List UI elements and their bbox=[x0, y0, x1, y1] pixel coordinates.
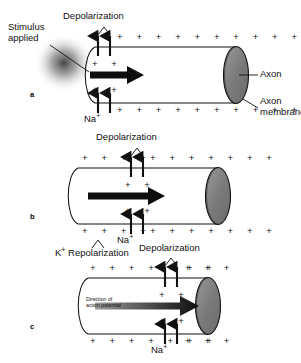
charge-row-a-top-inner: + + bbox=[92, 59, 122, 70]
charge-row-a-top-outer: + + + + + + + + + + + bbox=[117, 32, 301, 43]
axon-terminal-cap-c bbox=[196, 278, 221, 335]
charge-row-b-top-left: + + + + bbox=[82, 153, 151, 164]
charge-row-a-bot-inner: + + bbox=[92, 85, 122, 96]
charge-row-c-bot-right: + + + bbox=[185, 336, 235, 347]
axon-terminal-cap-b bbox=[206, 168, 231, 225]
charge-row-b-top-right: + + + + + + + bbox=[150, 153, 277, 164]
charge-row-c-top-right: + + + bbox=[185, 263, 235, 274]
depolarization-leader-a bbox=[98, 27, 110, 35]
potassium-repolarization-label: K+ Repolarization bbox=[55, 245, 129, 259]
panel-letter-b: b bbox=[30, 212, 35, 221]
charge-row-c-top-inner: + + bbox=[159, 290, 189, 301]
charge-row-b-top-inner: + + bbox=[125, 180, 155, 191]
charge-row-b-bot-left: + + + + bbox=[82, 226, 151, 237]
stimulus-applied-label: Stimulusapplied bbox=[8, 22, 44, 43]
direction-of-action-potential-label: Direction ofaction potential bbox=[86, 296, 121, 308]
axon-label: Axon bbox=[260, 69, 282, 80]
panel-letter-c: c bbox=[30, 322, 34, 331]
depolarization-label-a: Depolarization bbox=[63, 11, 124, 22]
charge-row-b-bot-inner: + + bbox=[125, 206, 155, 217]
charge-row-b-bot-right: + + + + + + + bbox=[150, 226, 277, 237]
action-potential-figure: Stimulusapplied Depolarization Na+ Axon … bbox=[0, 0, 301, 363]
charge-row-c-bot-inner: + + bbox=[159, 316, 189, 327]
depolarization-label-c: Depolarization bbox=[139, 243, 200, 254]
sodium-label-a: Na+ bbox=[84, 111, 100, 125]
depolarization-label-b: Depolarization bbox=[96, 132, 157, 143]
panel-letter-a: a bbox=[30, 90, 34, 99]
charge-row-a-bot-outer: + + + + + + + + + + + bbox=[117, 105, 301, 116]
